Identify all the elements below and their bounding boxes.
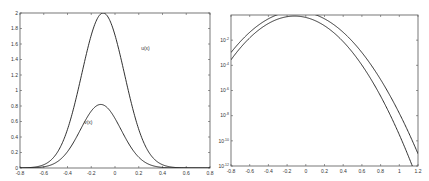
series-ux [231, 11, 418, 154]
linear-plot-panel: -0.8-0.6-0.4-0.200.20.40.60.800.20.40.60… [11, 10, 214, 176]
x-tick-label: 0.8 [207, 170, 214, 176]
y-tick-label: 0.8 [11, 103, 18, 109]
x-tick-label: 0.8 [377, 168, 384, 174]
x-tick-label: -0.4 [264, 168, 273, 174]
y-tick-label: 2 [15, 10, 18, 16]
x-tick-label: 0.6 [358, 168, 365, 174]
x-tick-label: 0.2 [135, 170, 142, 176]
x-tick-label: 0.2 [321, 168, 328, 174]
x-tick-label: -0.8 [227, 168, 236, 174]
y-tick-label: 1.6 [11, 41, 18, 47]
axes-frame [231, 15, 418, 166]
y-tick-label: 1 [15, 87, 18, 93]
y-tick-label: 10-6 [220, 87, 229, 93]
y-tick-label: 10-8 [220, 112, 229, 118]
y-tick-label: 10-10 [218, 138, 229, 144]
y-tick-label: 10-4 [220, 62, 229, 68]
x-tick-label: -0.2 [87, 170, 96, 176]
y-tick-label: 1.2 [11, 72, 18, 78]
x-tick-label: -0.6 [245, 168, 254, 174]
curve-annotation: v(x) [84, 119, 93, 125]
series-vx [20, 104, 210, 168]
y-tick-label: 0.2 [11, 149, 18, 155]
y-tick-label: 10-2 [220, 37, 229, 43]
x-tick-label: -0.8 [16, 170, 25, 176]
x-tick-label: -0.4 [63, 170, 72, 176]
x-tick-label: -0.2 [283, 168, 292, 174]
x-tick-label: 1 [398, 168, 401, 174]
y-tick-label: 1.4 [11, 56, 18, 62]
y-tick-label: 0 [15, 165, 18, 171]
curve-annotation: u(x) [141, 45, 150, 51]
x-tick-label: 0 [114, 170, 117, 176]
figure: -0.8-0.6-0.4-0.200.20.40.60.800.20.40.60… [0, 0, 429, 181]
x-tick-label: 1.2 [415, 168, 422, 174]
y-tick-label: 0.4 [11, 134, 18, 140]
y-tick-label: 1.8 [11, 25, 18, 31]
x-tick-label: 0 [304, 168, 307, 174]
x-tick-label: 0.6 [183, 170, 190, 176]
y-tick-label: 0.6 [11, 118, 18, 124]
x-tick-label: 0.4 [159, 170, 166, 176]
x-tick-label: -0.6 [39, 170, 48, 176]
x-tick-label: 0.4 [340, 168, 347, 174]
series-ux [20, 13, 210, 168]
series-vx [231, 16, 418, 181]
log-plot-panel: -0.8-0.6-0.4-0.200.20.40.60.811.210-1210… [218, 11, 421, 181]
